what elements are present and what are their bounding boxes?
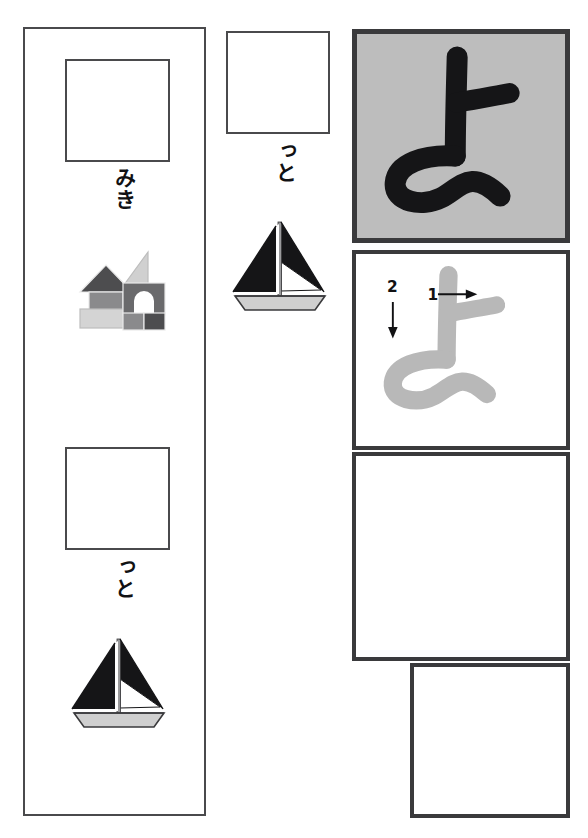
vocabulary-column-middle: っと <box>218 27 344 337</box>
sailboat-icon-left <box>60 631 178 729</box>
kana-hero-box <box>352 29 570 243</box>
kana-label-yotto-left: っと <box>113 556 135 600</box>
write-box-yotto-left[interactable] <box>65 447 170 550</box>
practice-box-2[interactable] <box>410 663 570 818</box>
stroke-order-panel: 1 2 <box>352 250 570 450</box>
vocabulary-column-left: みき っと <box>23 27 206 816</box>
worksheet-page: みき っと <box>0 0 588 838</box>
write-box-yotto-middle[interactable] <box>226 31 330 134</box>
kana-label-yotto-middle: っと <box>274 140 296 184</box>
kana-hero-glyph <box>357 34 565 238</box>
sailboat-icon-middle <box>221 214 339 312</box>
stroke-number-1: 1 <box>427 286 438 304</box>
kana-label-miki: みき <box>113 167 135 211</box>
write-box-miki[interactable] <box>65 59 170 162</box>
practice-box-1[interactable] <box>352 452 570 661</box>
toy-blocks-icon <box>62 247 176 339</box>
stroke-number-2: 2 <box>387 278 398 296</box>
stroke-arrow-2 <box>388 302 398 338</box>
